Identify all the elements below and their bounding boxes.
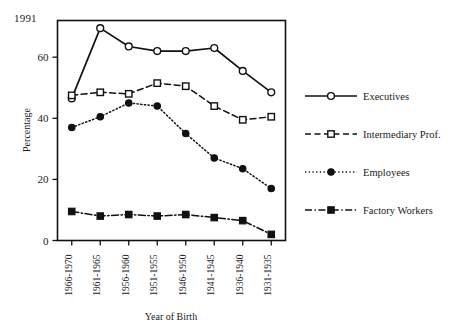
series-factory-workers	[69, 208, 275, 237]
data-point-marker	[183, 130, 189, 136]
x-tick-label: 1931-1935	[263, 254, 273, 295]
y-tick-label: 20	[38, 173, 50, 185]
x-axis-title: Year of Birth	[145, 311, 197, 322]
data-point-marker	[268, 89, 275, 96]
legend-marker	[328, 169, 334, 175]
y-axis-title: Percentage	[21, 108, 32, 152]
legend-label: Executives	[363, 91, 409, 102]
data-point-marker	[240, 117, 246, 123]
legend-marker	[328, 93, 335, 100]
data-point-marker	[211, 45, 218, 52]
data-point-marker	[126, 100, 132, 106]
chart-figure: 1991 0204060 1966-19701961-19651956-1960…	[0, 0, 457, 327]
data-point-marker	[154, 48, 161, 55]
data-point-marker	[268, 185, 274, 191]
data-point-marker	[211, 155, 217, 161]
data-point-marker	[126, 211, 132, 217]
series-line	[72, 28, 272, 98]
legend-item-executives[interactable]: Executives	[305, 91, 409, 102]
line-chart-svg: 0204060 1966-19701961-19651956-19601951-…	[0, 0, 457, 327]
data-point-marker	[154, 80, 160, 86]
data-point-marker	[268, 231, 274, 237]
data-point-marker	[211, 103, 217, 109]
legend-marker	[328, 207, 334, 213]
y-tick-label: 0	[43, 235, 49, 247]
series-employees	[69, 100, 275, 192]
legend-item-intermediary-prof[interactable]: Intermediary Prof.	[305, 129, 441, 140]
x-tick-label: 1936-1940	[235, 254, 245, 295]
legend-item-factory-workers[interactable]: Factory Workers	[305, 205, 433, 216]
data-point-marker	[126, 91, 132, 97]
y-axis-ticks: 0204060	[38, 51, 58, 246]
x-tick-label: 1961-1965	[92, 254, 102, 295]
x-tick-label: 1941-1945	[206, 254, 216, 295]
data-point-marker	[182, 48, 189, 55]
data-point-marker	[69, 208, 75, 214]
y-tick-label: 60	[38, 51, 50, 63]
data-point-marker	[183, 211, 189, 217]
data-point-marker	[240, 165, 246, 171]
data-point-marker	[97, 114, 103, 120]
data-point-marker	[268, 114, 274, 120]
data-point-marker	[211, 214, 217, 220]
data-point-marker	[97, 25, 104, 32]
legend-label: Employees	[363, 167, 410, 178]
data-point-marker	[69, 124, 75, 130]
data-point-marker	[183, 83, 189, 89]
plot-frame	[58, 21, 286, 241]
data-point-marker	[239, 68, 246, 75]
data-point-marker	[97, 89, 103, 95]
x-tick-label: 1956-1960	[121, 254, 131, 295]
legend-item-employees[interactable]: Employees	[305, 167, 410, 178]
data-point-marker	[97, 213, 103, 219]
chart-legend: ExecutivesIntermediary Prof.EmployeesFac…	[305, 91, 441, 216]
data-point-marker	[240, 217, 246, 223]
x-tick-label: 1946-1950	[178, 254, 188, 295]
legend-label: Intermediary Prof.	[363, 129, 441, 140]
legend-marker	[328, 131, 334, 137]
chart-series-group	[68, 25, 274, 238]
x-axis-tick-labels: 1966-19701961-19651956-19601951-19551946…	[64, 254, 274, 295]
legend-label: Factory Workers	[363, 205, 433, 216]
y-tick-label: 40	[38, 112, 50, 124]
x-tick-label: 1951-1955	[149, 254, 159, 295]
data-point-marker	[154, 103, 160, 109]
data-point-marker	[154, 213, 160, 219]
x-tick-label: 1966-1970	[64, 254, 74, 295]
data-point-marker	[69, 92, 75, 98]
data-point-marker	[125, 43, 132, 50]
